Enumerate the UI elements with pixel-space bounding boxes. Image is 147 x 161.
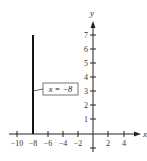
x-tick-label: −6 [44,139,53,148]
label-leader-line [33,89,43,91]
y-tick-label: 5 [84,59,88,68]
y-tick-label: 4 [84,73,88,82]
x-tick-label: −4 [59,139,68,148]
x-axis-arrow-icon [134,132,141,137]
x-tick-label: 2 [106,139,110,148]
y-axis-arrow-icon [91,21,96,28]
x-tick-label: −8 [29,139,38,148]
graph: −10 −8 −6 −4 −2 2 4 1 2 3 4 5 6 7 x y x … [0,0,147,161]
y-tick-label: 2 [84,101,88,110]
y-tick-label: 1 [84,115,88,124]
x-tick-label: 4 [122,139,126,148]
y-axis-label: y [89,8,94,18]
x-tick-label: −2 [74,139,83,148]
equation-label: x = −8 [48,84,73,94]
x-tick-label: −10 [11,139,24,148]
x-axis-label: x [142,129,147,139]
y-tick-label: 6 [84,45,88,54]
y-tick-label: 7 [84,31,88,40]
y-tick-label: 3 [84,87,88,96]
